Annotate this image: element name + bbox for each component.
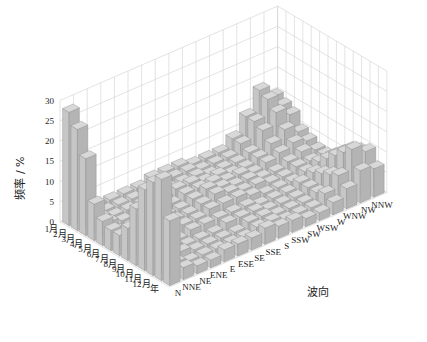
month-tick: 年 <box>150 283 159 294</box>
z-tick: 15 <box>45 156 55 166</box>
bar <box>163 213 180 286</box>
direction-tick: S <box>284 241 289 251</box>
z-tick: 5 <box>50 197 55 207</box>
direction-axis-label: 波向 <box>307 285 329 299</box>
direction-tick: WSW <box>317 223 340 233</box>
direction-tick: SSE <box>265 247 281 257</box>
direction-tick: E <box>230 264 236 274</box>
direction-tick: NNW <box>371 200 393 210</box>
direction-tick: N <box>175 288 182 298</box>
direction-tick: ENE <box>210 270 228 280</box>
z-tick: 20 <box>45 136 55 146</box>
z-tick: 25 <box>45 116 55 126</box>
z-tick: 30 <box>45 96 55 106</box>
bar3d-chart: 0510152025301月2月3月4月5月6月7月8月9月10月11月12月年… <box>0 0 427 342</box>
month-tick: 12月 <box>133 279 151 289</box>
direction-tick: SE <box>254 253 265 263</box>
direction-tick: ESE <box>238 259 255 269</box>
z-tick: 10 <box>45 177 55 187</box>
y-axis-label: 频率 / % <box>13 156 27 199</box>
